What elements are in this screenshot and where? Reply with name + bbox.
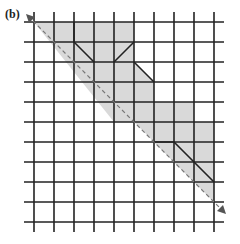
grid-diagram: [0, 0, 240, 244]
